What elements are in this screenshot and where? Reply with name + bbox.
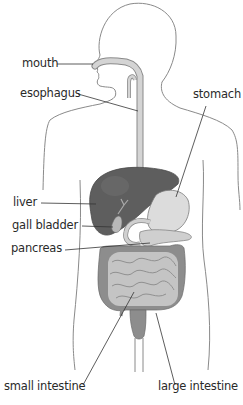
- label-liver: liver: [13, 196, 37, 209]
- label-gall-bladder: gall bladder: [12, 219, 78, 232]
- label-esophagus: esophagus: [20, 87, 81, 100]
- label-small-intestine: small intestine: [4, 380, 85, 393]
- label-stomach: stomach: [193, 88, 241, 101]
- label-large-intestine: large intestine: [158, 380, 238, 393]
- pancreas-shape: [139, 230, 191, 247]
- digestive-system-diagram: mouth esophagus stomach liver gall bladd…: [0, 0, 243, 405]
- small-intestine-shape: [108, 252, 178, 306]
- label-pancreas: pancreas: [11, 242, 62, 255]
- label-mouth: mouth: [22, 57, 58, 70]
